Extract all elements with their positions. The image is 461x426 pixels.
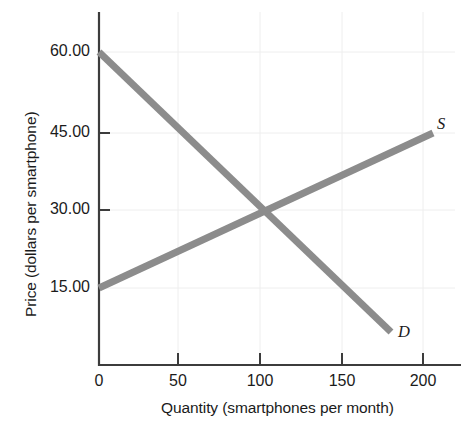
x-tick-label-0: 0	[69, 372, 129, 390]
supply-demand-chart-figure: 60.00 45.00 30.00 15.00 0 50 100 150 200…	[0, 0, 461, 426]
x-tick-label-150: 150	[312, 372, 372, 390]
y-tick-label-45: 45.00	[4, 123, 90, 141]
x-axis-title: Quantity (smartphones per month)	[94, 399, 461, 417]
y-tick-label-60: 60.00	[4, 42, 90, 60]
supply-curve-label: S	[437, 114, 445, 134]
y-axis-ticks	[99, 133, 110, 210]
y-tick-label-15: 15.00	[4, 278, 90, 296]
grid-lines	[99, 12, 455, 365]
y-axis-title: Price (dollars per smartphone)	[22, 17, 44, 317]
demand-curve	[99, 52, 391, 332]
x-tick-label-200: 200	[393, 372, 453, 390]
x-tick-label-100: 100	[230, 372, 290, 390]
x-axis-ticks	[178, 353, 423, 365]
x-tick-label-50: 50	[148, 372, 208, 390]
demand-curve-label: D	[398, 322, 410, 342]
y-tick-label-30: 30.00	[4, 200, 90, 218]
